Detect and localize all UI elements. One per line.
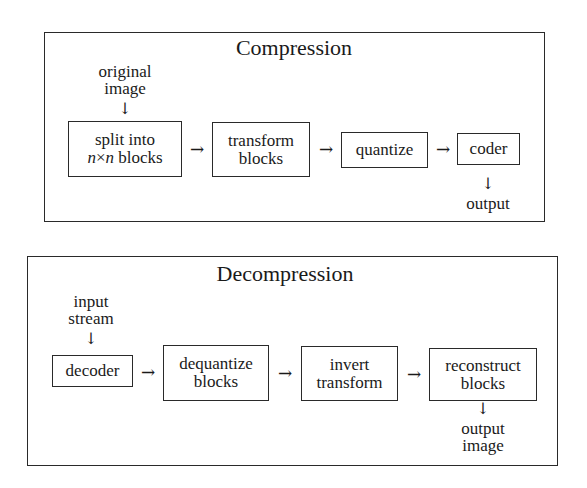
down-arrow-icon: ↓ — [481, 176, 494, 192]
output-image-label: output image — [461, 420, 504, 454]
split-blocks-node: split into n×n blocks — [68, 121, 182, 177]
down-arrow-icon: ↓ — [118, 101, 131, 117]
right-arrow-icon: → — [436, 141, 450, 158]
compression-title: Compression — [236, 36, 352, 60]
original-image-label: original image — [99, 63, 152, 97]
original-image-label-line2: image — [99, 80, 152, 97]
right-arrow-icon: → — [190, 141, 204, 158]
decoder-label: decoder — [66, 362, 120, 380]
input-stream-label: input stream — [68, 293, 113, 327]
output-image-label-line1: output — [461, 420, 504, 437]
coder-node: coder — [457, 133, 520, 165]
right-arrow-icon: → — [407, 366, 421, 383]
reconstruct-blocks-node: reconstruct blocks — [429, 348, 537, 401]
right-arrow-icon: → — [141, 364, 155, 381]
down-arrow-icon: ↓ — [84, 331, 97, 347]
quantize-node: quantize — [341, 132, 428, 168]
transform-blocks-node: transform blocks — [212, 122, 310, 177]
dequantize-blocks-line1: dequantize — [179, 355, 253, 373]
right-arrow-icon: → — [319, 141, 333, 158]
reconstruct-blocks-line2: blocks — [461, 375, 505, 393]
down-arrow-icon: ↓ — [476, 401, 489, 417]
output-label-line1: output — [466, 195, 509, 212]
n-var: n — [87, 148, 96, 167]
quantize-label: quantize — [356, 141, 414, 159]
n-var: n — [105, 148, 114, 167]
transform-blocks-line2: blocks — [239, 150, 283, 168]
output-label: output — [466, 195, 509, 212]
dequantize-blocks-node: dequantize blocks — [163, 345, 269, 401]
output-image-label-line2: image — [461, 437, 504, 454]
original-image-label-line1: original — [99, 63, 152, 80]
split-blocks-line1: split into — [95, 131, 155, 149]
invert-transform-line1: invert — [330, 356, 370, 374]
invert-transform-node: invert transform — [301, 346, 398, 401]
reconstruct-blocks-line1: reconstruct — [445, 357, 521, 375]
input-stream-label-line2: stream — [68, 310, 113, 327]
decoder-node: decoder — [52, 355, 133, 387]
split-blocks-line2: n×n blocks — [87, 149, 162, 167]
decompression-title: Decompression — [217, 262, 354, 286]
dequantize-blocks-line2: blocks — [194, 373, 238, 391]
coder-label: coder — [470, 140, 508, 158]
blocks-text: blocks — [114, 148, 163, 167]
input-stream-label-line1: input — [68, 293, 113, 310]
transform-blocks-line1: transform — [228, 132, 294, 150]
invert-transform-line2: transform — [316, 374, 382, 392]
right-arrow-icon: → — [278, 365, 292, 382]
